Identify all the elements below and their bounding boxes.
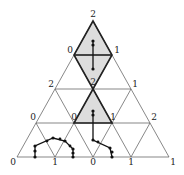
label: 0	[30, 112, 36, 122]
label: 2	[90, 77, 96, 87]
label: 2	[48, 79, 54, 89]
label: 1	[110, 112, 116, 122]
label: 1	[170, 157, 176, 167]
label: 0	[67, 45, 73, 55]
label-top: 2	[90, 9, 96, 19]
label: 1	[132, 79, 138, 89]
label: 0	[90, 157, 96, 167]
label: 2	[151, 112, 157, 122]
label: 0	[71, 112, 77, 122]
label: 1	[128, 157, 134, 167]
triangle-diagram: 2 0 1 2 2 1 0 0 1 2 0 1 0 1 1	[0, 0, 184, 175]
label: 1	[114, 45, 120, 55]
label: 1	[52, 157, 58, 167]
label: 0	[10, 157, 16, 167]
